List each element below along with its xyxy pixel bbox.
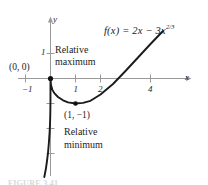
x-tick-label-1: 1 [74, 84, 79, 94]
relative-maximum-text-line2: maximum [55, 56, 96, 67]
function-expression-exponent: 2/3 [166, 23, 175, 30]
function-expression-main: f(x) = 2x − 3x [104, 25, 166, 36]
function-expression-label: f(x) = 2x − 3x2/3 [104, 23, 175, 36]
relative-minimum-point-marker [73, 101, 78, 106]
relative-minimum-text-line2: minimum [64, 139, 103, 150]
figure-container: x y −1 1 2 4 1 f(x) = 2x − 3x2/3 (0, 0) … [0, 0, 208, 185]
relative-maximum-text-line1: Relative [55, 44, 88, 55]
x-axis-label: x [185, 72, 189, 82]
y-tick-label-1: 1 [41, 47, 46, 57]
relative-maximum-point-label: (0, 0) [9, 62, 30, 73]
x-tick-label-neg1: −1 [22, 84, 33, 94]
figure-caption: FIGURE 3.41 [8, 179, 58, 185]
relative-maximum-point-marker [48, 76, 53, 81]
y-axis-label: y [53, 14, 57, 24]
x-tick-label-2: 2 [98, 84, 103, 94]
x-tick-label-4: 4 [148, 84, 153, 94]
relative-minimum-point-label: (1, −1) [64, 110, 90, 121]
relative-minimum-text-line1: Relative [64, 126, 97, 137]
